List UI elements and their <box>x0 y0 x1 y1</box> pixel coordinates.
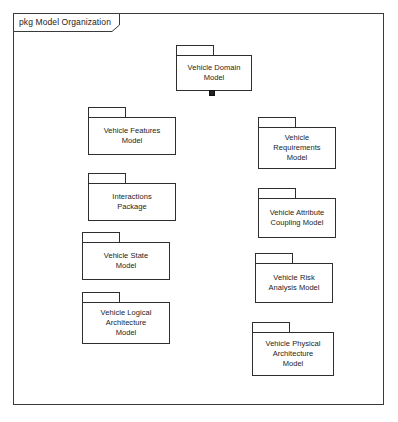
package-vehicle-features-model[interactable]: Vehicle Features Model <box>88 107 176 155</box>
frame-label-text: pkg Model Organization <box>13 13 120 32</box>
package-vehicle-logical-architecture-model[interactable]: Vehicle Logical Architecture Model <box>82 292 170 344</box>
package-label: Interactions Package <box>109 192 154 212</box>
package-vehicle-domain-model[interactable]: Vehicle Domain Model <box>176 45 252 91</box>
composition-anchor-icon <box>209 90 215 96</box>
package-body: Vehicle Requirements Model <box>258 127 336 169</box>
package-vehicle-state-model[interactable]: Vehicle State Model <box>82 232 170 280</box>
package-vehicle-risk-analysis-model[interactable]: Vehicle Risk Analysis Model <box>255 253 333 303</box>
package-label: Vehicle Risk Analysis Model <box>265 273 322 293</box>
package-body: Vehicle Features Model <box>88 117 176 155</box>
package-vehicle-requirements-model[interactable]: Vehicle Requirements Model <box>258 117 336 169</box>
package-vehicle-attribute-coupling-model[interactable]: Vehicle Attribute Coupling Model <box>258 188 336 238</box>
package-label: Vehicle Features Model <box>101 126 164 146</box>
package-label: Vehicle Requirements Model <box>270 133 323 163</box>
package-label: Vehicle Attribute Coupling Model <box>267 208 328 228</box>
package-label: Vehicle Logical Architecture Model <box>98 308 155 338</box>
package-body: Vehicle Risk Analysis Model <box>255 263 333 303</box>
package-body: Vehicle Physical Architecture Model <box>252 332 334 376</box>
diagram-canvas: pkg Model Organization Vehicle Domain Mo… <box>0 0 398 422</box>
package-body: Vehicle Domain Model <box>176 55 252 91</box>
package-label: Vehicle State Model <box>101 251 151 271</box>
package-body: Interactions Package <box>88 183 176 221</box>
package-body: Vehicle State Model <box>82 242 170 280</box>
package-body: Vehicle Attribute Coupling Model <box>258 198 336 238</box>
package-body: Vehicle Logical Architecture Model <box>82 302 170 344</box>
package-label: Vehicle Physical Architecture Model <box>263 339 324 369</box>
package-label: Vehicle Domain Model <box>185 63 244 83</box>
package-vehicle-physical-architecture-model[interactable]: Vehicle Physical Architecture Model <box>252 322 334 376</box>
package-interactions-package[interactable]: Interactions Package <box>88 173 176 221</box>
